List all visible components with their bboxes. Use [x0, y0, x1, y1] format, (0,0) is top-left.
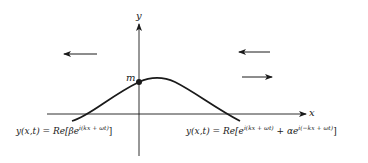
point-m-label: m [126, 73, 135, 83]
wave-diagram [0, 0, 368, 163]
equation-right: y(x,t) = Re[ei(kx + ωt) + αei(−kx + ωt)] [186, 125, 337, 136]
point-m-marker [136, 79, 142, 85]
x-axis-label: x [309, 108, 315, 118]
y-axis-label: y [136, 11, 142, 21]
equation-left: y(x,t) = Re[βei(kx + ωt)] [16, 125, 112, 136]
wave-curve [72, 78, 240, 121]
